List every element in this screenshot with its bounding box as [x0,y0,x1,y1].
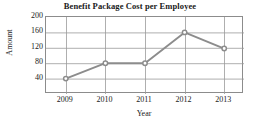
series-line [66,32,224,78]
y-axis-tick-label: 40 [19,74,43,82]
y-axis-title: Amount [5,20,14,66]
data-point-marker [143,61,147,65]
y-axis-tick-labels: 4080120160200 [17,0,43,129]
data-point-marker [222,46,226,50]
data-point-marker [182,30,186,34]
x-axis-tick-label: 2010 [84,95,124,104]
x-axis-tick-label: 2009 [45,95,85,104]
x-axis-tick-label: 2013 [203,95,243,104]
data-series [46,17,244,94]
y-axis-tick-label: 120 [19,43,43,51]
x-axis-tick-label: 2011 [124,95,164,104]
y-axis-tick-label: 80 [19,58,43,66]
y-axis-tick-label: 200 [19,12,43,20]
y-axis-tick-label: 160 [19,27,43,35]
data-point-marker [103,61,107,65]
data-point-marker [64,76,68,80]
x-axis-tick-label: 2012 [164,95,204,104]
plot-area [45,16,243,93]
x-axis-title: Year [45,109,243,118]
line-chart: Benefit Package Cost per Employee Amount… [0,0,260,129]
